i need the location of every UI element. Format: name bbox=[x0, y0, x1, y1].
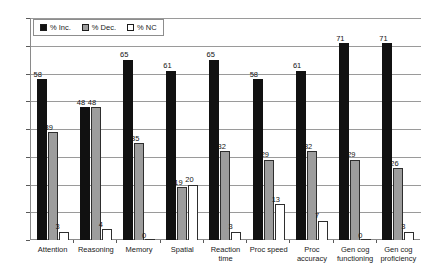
bar-value-label: 3 bbox=[56, 223, 60, 231]
bar-value-label: 0 bbox=[142, 232, 146, 240]
bar[interactable] bbox=[253, 79, 263, 240]
bar-slot: 0 bbox=[361, 18, 371, 240]
bar[interactable] bbox=[231, 232, 241, 240]
x-axis-label: Proc accuracy bbox=[290, 245, 333, 264]
bar-slot: 26 bbox=[393, 18, 403, 240]
bar-slot: 35 bbox=[134, 18, 144, 240]
x-axis-tick-mark bbox=[289, 240, 290, 243]
x-axis-label: Spatial bbox=[161, 245, 204, 264]
bar-group: 61327 bbox=[290, 18, 333, 240]
bar-value-label: 35 bbox=[131, 135, 139, 143]
bar-value-label: 20 bbox=[185, 176, 193, 184]
bar[interactable] bbox=[37, 79, 47, 240]
y-axis-tick-mark bbox=[26, 185, 30, 186]
bar-group: 71263 bbox=[377, 18, 420, 240]
legend-label: % Dec. bbox=[92, 24, 116, 32]
bar-groups: 5839348484653506119206532358291361327712… bbox=[31, 18, 420, 240]
x-axis-label: Reasoning bbox=[74, 245, 117, 264]
x-axis-label: Gen cog proficiency bbox=[377, 245, 420, 264]
legend-label: % NC bbox=[137, 24, 157, 32]
bar-group: 65323 bbox=[204, 18, 247, 240]
bar-slot: 48 bbox=[91, 18, 101, 240]
bar[interactable] bbox=[102, 229, 112, 240]
bar-slot: 48 bbox=[80, 18, 90, 240]
bar-slot: 39 bbox=[48, 18, 58, 240]
x-axis-tick-mark bbox=[203, 240, 204, 243]
bar-slot: 3 bbox=[59, 18, 69, 240]
y-axis-tick-mark bbox=[26, 129, 30, 130]
bar[interactable] bbox=[404, 232, 414, 240]
bar-slot: 32 bbox=[220, 18, 230, 240]
bar-value-label: 13 bbox=[272, 196, 280, 204]
white-square-icon bbox=[127, 24, 134, 31]
legend-item[interactable]: % Inc. bbox=[40, 24, 71, 32]
bar[interactable] bbox=[166, 71, 176, 240]
legend-label: % Inc. bbox=[50, 24, 71, 32]
bar[interactable] bbox=[296, 71, 306, 240]
x-axis-label: Reaction time bbox=[204, 245, 247, 264]
bar-slot: 20 bbox=[188, 18, 198, 240]
bar-slot: 61 bbox=[166, 18, 176, 240]
x-axis-tick-mark bbox=[333, 240, 334, 243]
bar-group: 582913 bbox=[247, 18, 290, 240]
bar-value-label: 71 bbox=[336, 35, 344, 43]
bar[interactable] bbox=[123, 60, 133, 240]
x-axis-labels: AttentionReasoningMemorySpatialReaction … bbox=[31, 245, 420, 264]
bar[interactable] bbox=[134, 143, 144, 240]
bar-value-label: 4 bbox=[99, 221, 103, 229]
bar-value-label: 48 bbox=[77, 99, 85, 107]
bar-value-label: 71 bbox=[379, 35, 387, 43]
bar-slot: 3 bbox=[231, 18, 241, 240]
bar-value-label: 26 bbox=[390, 160, 398, 168]
black-square-icon bbox=[40, 24, 47, 31]
y-axis-tick-mark bbox=[26, 74, 30, 75]
chart-legend: % Inc.% Dec.% NC bbox=[33, 19, 164, 36]
bar-value-label: 29 bbox=[261, 151, 269, 159]
bar[interactable] bbox=[177, 187, 187, 240]
bar-value-label: 32 bbox=[217, 143, 225, 151]
bar[interactable] bbox=[339, 43, 349, 240]
bar-slot: 29 bbox=[350, 18, 360, 240]
bar-group: 611920 bbox=[161, 18, 204, 240]
y-axis-tick-mark bbox=[26, 240, 30, 241]
bar-value-label: 7 bbox=[315, 212, 319, 220]
bar-slot: 58 bbox=[253, 18, 263, 240]
bar-value-label: 48 bbox=[88, 99, 96, 107]
legend-item[interactable]: % Dec. bbox=[82, 24, 116, 32]
bar[interactable] bbox=[382, 43, 392, 240]
bar[interactable] bbox=[361, 239, 371, 240]
bar[interactable] bbox=[350, 160, 360, 240]
bar[interactable] bbox=[318, 221, 328, 240]
bar[interactable] bbox=[145, 239, 155, 240]
bar-slot: 19 bbox=[177, 18, 187, 240]
bar[interactable] bbox=[59, 232, 69, 240]
bar-value-label: 32 bbox=[304, 143, 312, 151]
bar-group: 65350 bbox=[117, 18, 160, 240]
bar-slot: 71 bbox=[339, 18, 349, 240]
x-axis-tick-mark bbox=[116, 240, 117, 243]
bar-value-label: 29 bbox=[347, 151, 355, 159]
bar-slot: 3 bbox=[404, 18, 414, 240]
bar-value-label: 39 bbox=[45, 124, 53, 132]
bar-group: 58393 bbox=[31, 18, 74, 240]
x-axis-tick-mark bbox=[376, 240, 377, 243]
bar-value-label: 19 bbox=[174, 179, 182, 187]
bar[interactable] bbox=[188, 185, 198, 241]
bar[interactable] bbox=[80, 107, 90, 240]
y-axis-tick-mark bbox=[26, 101, 30, 102]
x-axis-label: Proc speed bbox=[247, 245, 290, 264]
bar-value-label: 58 bbox=[34, 71, 42, 79]
x-axis-tick-mark bbox=[246, 240, 247, 243]
bar-slot: 32 bbox=[307, 18, 317, 240]
x-axis-tick-mark bbox=[73, 240, 74, 243]
bar[interactable] bbox=[275, 204, 285, 240]
bar-group: 71290 bbox=[334, 18, 377, 240]
bar-slot: 4 bbox=[102, 18, 112, 240]
bar-value-label: 3 bbox=[401, 223, 405, 231]
bar[interactable] bbox=[307, 151, 317, 240]
bar-group: 48484 bbox=[74, 18, 117, 240]
bar-slot: 61 bbox=[296, 18, 306, 240]
bar-slot: 7 bbox=[318, 18, 328, 240]
legend-item[interactable]: % NC bbox=[127, 24, 157, 32]
bar-slot: 71 bbox=[382, 18, 392, 240]
